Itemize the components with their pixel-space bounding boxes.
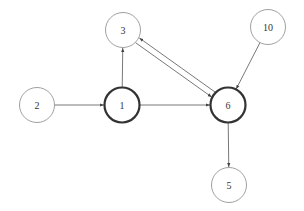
edge-6-to-3 (139, 38, 215, 92)
edge-3-to-6 (135, 43, 211, 97)
edge-10-to-6 (236, 43, 260, 89)
edge-6-to-5 (228, 122, 229, 167)
node-label: 10 (263, 22, 273, 33)
node-label: 6 (226, 100, 231, 111)
node-label: 1 (120, 100, 125, 111)
node-label: 2 (35, 100, 40, 111)
node-label: 5 (227, 180, 232, 191)
edge-1-to-3 (122, 48, 123, 88)
node-label: 3 (121, 25, 126, 36)
node-5: 5 (212, 168, 247, 203)
node-10: 10 (251, 10, 286, 45)
node-6: 6 (211, 88, 246, 123)
node-1: 1 (105, 88, 140, 123)
graph-canvas: 3102165 (0, 0, 304, 211)
node-2: 2 (20, 88, 55, 123)
node-3: 3 (106, 13, 141, 48)
nodes-layer: 3102165 (20, 10, 286, 203)
